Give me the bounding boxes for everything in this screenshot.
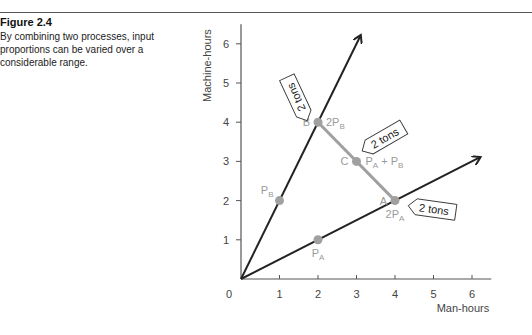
- point-label-pb: PB: [261, 184, 274, 199]
- y-axis-label: Machine-hours: [201, 29, 213, 102]
- x-tick-label: 4: [392, 288, 398, 300]
- x-tick-label: 5: [430, 288, 436, 300]
- y-tick-label: 3: [223, 155, 229, 167]
- point-label-b: 2PB: [326, 116, 345, 131]
- point-c: [352, 157, 361, 166]
- point-label-a: 2PA: [386, 208, 405, 223]
- process-rays: [241, 36, 480, 279]
- chart: 1234561234560Man-hoursMachine-hours PBPA…: [0, 0, 532, 335]
- point-label-pa: PA: [312, 247, 325, 262]
- point-letter-c: C: [341, 155, 349, 167]
- point-b: [314, 118, 323, 127]
- x-tick-label: 3: [353, 288, 359, 300]
- point-a: [391, 196, 400, 205]
- point-letter-a: A: [380, 195, 388, 207]
- origin-label: 0: [226, 288, 232, 300]
- point-label-c: PA + PB: [366, 155, 404, 170]
- x-tick-label: 6: [469, 288, 475, 300]
- annotation-2-tons: 2 tons: [358, 120, 408, 158]
- x-tick-label: 1: [276, 288, 282, 300]
- y-tick-label: 2: [223, 195, 229, 207]
- x-axis-label: Man-hours: [437, 302, 490, 314]
- y-tick-label: 5: [223, 77, 229, 89]
- y-tick-label: 1: [223, 234, 229, 246]
- point-pa: [314, 235, 323, 244]
- y-tick-label: 6: [223, 38, 229, 50]
- x-tick-label: 2: [315, 288, 321, 300]
- y-tick-label: 4: [223, 116, 229, 128]
- annotation-2-tons: 2 tons: [407, 198, 457, 221]
- point-pb: [275, 196, 284, 205]
